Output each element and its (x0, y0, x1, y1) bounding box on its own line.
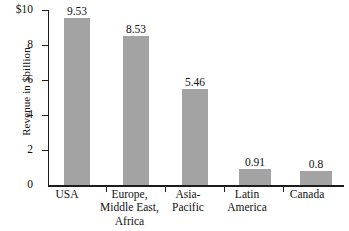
bar-value-canada: 0.8 (296, 159, 336, 171)
y-tick-label: 2 (27, 144, 33, 156)
bar-value-europe-middle-east-africa: 8.53 (116, 24, 156, 36)
y-tick-label: 8 (27, 39, 33, 51)
y-axis-line (48, 10, 49, 185)
bar-usa (64, 18, 90, 185)
y-tick-mark (42, 80, 49, 81)
category-label-canada: Canada (274, 188, 340, 201)
bar-asia-pacific (182, 89, 208, 185)
category-label-line: Canada (274, 188, 340, 201)
bar-value-asia-pacific: 5.46 (175, 77, 215, 89)
category-label-latin-america: Latin America (210, 188, 284, 215)
bar-canada (300, 171, 332, 185)
y-tick-label: 6 (27, 74, 33, 86)
bar-value-usa: 9.53 (57, 6, 97, 18)
y-tick-label: 4 (27, 109, 33, 121)
bar-europe-middle-east-africa (123, 36, 149, 185)
category-label-line: USA (39, 188, 95, 201)
y-tick-mark (42, 10, 49, 11)
y-tick-mark (42, 150, 49, 151)
y-tick-label: 0 (27, 179, 33, 191)
category-label-usa: USA (39, 188, 95, 201)
category-label-line: Latin (210, 188, 284, 201)
category-label-line: Africa (91, 215, 168, 228)
bar-chart: Revenue in $billion $10 8 6 4 (0, 0, 349, 231)
x-axis-line (48, 185, 344, 187)
y-tick-mark (42, 115, 49, 116)
y-tick-label: $10 (16, 4, 33, 16)
y-tick-mark (42, 45, 49, 46)
bar-value-latin-america: 0.91 (235, 157, 275, 169)
bar-latin-america (239, 169, 271, 185)
plot-area: $10 8 6 4 2 0 (48, 10, 344, 185)
category-label-line: America (210, 201, 284, 214)
